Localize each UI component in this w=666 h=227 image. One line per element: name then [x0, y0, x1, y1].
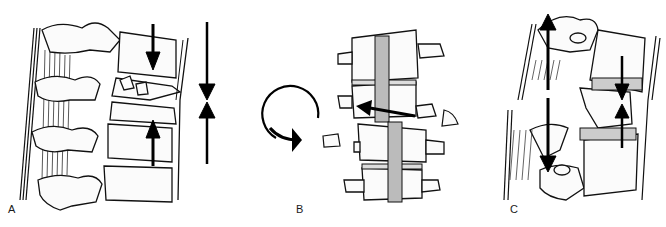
panel-a-illustration [0, 0, 240, 227]
panel-c-illustration [480, 0, 666, 227]
panel-label-b: B [296, 203, 303, 215]
panel-label-c: C [510, 203, 518, 215]
panel-label-a: A [8, 203, 15, 215]
panel-c: C [480, 0, 666, 227]
panel-b-illustration [240, 0, 480, 227]
rotation-arrow-icon [262, 86, 318, 152]
panel-b: B [240, 0, 480, 227]
panel-a: A [0, 0, 240, 227]
